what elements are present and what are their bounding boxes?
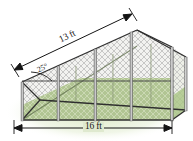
fence-post — [21, 82, 24, 121]
fence-post — [94, 49, 97, 121]
fence-post — [130, 32, 133, 121]
fence-diagram-svg — [0, 0, 193, 141]
base-length-label: 16 ft — [83, 122, 104, 132]
fence-post — [171, 47, 174, 121]
geometry-figure: 13 ft 25° 16 ft — [0, 0, 193, 141]
fence-post — [57, 66, 60, 121]
fence-post-rear — [185, 57, 187, 111]
arrowhead — [123, 14, 132, 21]
arrowhead — [14, 63, 23, 70]
